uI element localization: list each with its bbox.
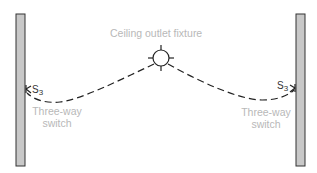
- left-switch-icon: [26, 85, 31, 93]
- wire-right: [168, 64, 294, 100]
- left-switch-symbol: S3: [32, 84, 43, 98]
- right-switch-symbol-subscript: 3: [284, 84, 288, 93]
- left-switch-symbol-subscript: 3: [39, 88, 43, 97]
- left-switch-label: Three-way switch: [29, 105, 85, 129]
- left-switch-label-line2: switch: [29, 117, 85, 129]
- right-switch-label-line1: Three-way: [236, 106, 296, 118]
- left-wall: [16, 14, 25, 166]
- left-switch-label-line1: Three-way: [29, 105, 85, 117]
- right-switch-label: Three-way switch: [236, 106, 296, 130]
- wiring-diagram: [0, 0, 317, 173]
- left-switch-symbol-letter: S: [32, 84, 39, 95]
- right-switch-symbol-letter: S: [277, 80, 284, 91]
- right-switch-symbol: S3: [277, 80, 288, 94]
- wire-left: [27, 64, 154, 102]
- ceiling-fixture-label: Ceiling outlet fixture: [110, 27, 202, 39]
- right-switch-label-line2: switch: [236, 118, 296, 130]
- right-wall: [296, 14, 305, 166]
- ceiling-fixture-icon: [148, 45, 174, 71]
